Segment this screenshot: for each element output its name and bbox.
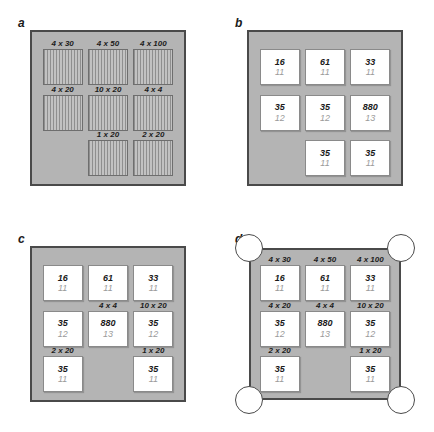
grid-cell[interactable]: 2 x 20 35 11 [40,347,85,392]
striped-box[interactable] [88,95,128,131]
grid-cell[interactable]: 35 11 [348,131,393,176]
value-box[interactable]: 35 11 [133,356,173,392]
value-primary: 61 [320,273,330,283]
value-box[interactable]: 35 12 [350,311,390,347]
grid-cell[interactable]: 4 x 20 [40,85,85,130]
cell-grid-b: 16 11 61 11 33 11 [249,32,401,184]
value-primary: 33 [148,273,158,283]
grid-cell[interactable]: 10 x 20 35 12 [131,301,176,346]
striped-box[interactable] [133,95,173,131]
value-box[interactable]: 16 11 [260,49,300,85]
grid-cell[interactable]: 35 11 [302,131,347,176]
value-secondary: 11 [103,283,112,293]
grid-cell[interactable]: 4 x 20 35 12 [257,301,302,346]
grid-cell[interactable]: 1 x 20 [85,131,130,176]
grid-cell[interactable]: 16 11 [40,256,85,301]
value-secondary: 12 [58,329,68,339]
value-box[interactable]: 33 11 [350,265,390,301]
grid-cell[interactable]: 4 x 4 [131,85,176,130]
grid-cell[interactable]: 4 x 4 880 13 [302,301,347,346]
cell-label: 1 x 20 [142,347,164,355]
striped-box[interactable] [43,49,83,85]
grid-cell[interactable]: 880 13 [348,85,393,130]
value-secondary: 11 [275,283,284,293]
value-box[interactable]: 35 12 [305,95,345,131]
value-secondary: 11 [366,283,375,293]
corner-circle-top-left[interactable] [235,234,263,262]
value-secondary: 12 [365,329,375,339]
grid-cell[interactable]: 4 x 4 880 13 [85,301,130,346]
grid-cell[interactable]: 33 11 [348,40,393,85]
board-c: 16 11 61 11 33 11 [30,246,186,402]
value-box[interactable]: 35 11 [350,140,390,176]
value-box[interactable]: 35 11 [43,356,83,392]
value-box[interactable]: 61 11 [305,265,345,301]
panel-c: c 16 11 61 11 [0,216,217,432]
cell-label: 2 x 20 [269,347,291,355]
cell-label: 1 x 20 [359,347,381,355]
grid-cell[interactable]: 10 x 20 [85,85,130,130]
striped-box[interactable] [88,140,128,176]
grid-cell[interactable]: 10 x 20 35 12 [348,301,393,346]
grid-cell[interactable]: 16 11 [257,40,302,85]
value-box[interactable]: 35 11 [350,356,390,392]
grid-cell[interactable]: 35 12 [302,85,347,130]
value-box[interactable]: 35 12 [260,95,300,131]
value-box[interactable]: 33 11 [350,49,390,85]
grid-cell[interactable]: 1 x 20 35 11 [348,347,393,392]
panel-b: b 16 11 61 11 [217,0,434,216]
value-box[interactable]: 35 12 [260,311,300,347]
value-box[interactable]: 33 11 [133,265,173,301]
cell-label: 4 x 30 [52,40,74,48]
value-secondary: 11 [320,283,329,293]
grid-cell[interactable]: 33 11 [131,256,176,301]
grid-cell[interactable]: 2 x 20 [131,131,176,176]
value-box[interactable]: 35 11 [305,140,345,176]
value-secondary: 11 [366,374,375,384]
value-box[interactable]: 880 13 [350,95,390,131]
value-primary: 16 [275,57,285,67]
value-box[interactable]: 35 12 [133,311,173,347]
striped-box[interactable] [88,49,128,85]
value-box[interactable]: 35 12 [43,311,83,347]
value-box[interactable]: 880 13 [305,311,345,347]
grid-cell[interactable]: 1 x 20 35 11 [131,347,176,392]
grid-cell[interactable]: 4 x 50 61 11 [302,256,347,301]
corner-circle-bottom-left[interactable] [235,386,263,414]
grid-cell[interactable]: 4 x 100 [131,40,176,85]
value-primary: 35 [148,318,158,328]
corner-circle-top-right[interactable] [387,234,415,262]
grid-cell[interactable]: 35 12 [257,85,302,130]
value-primary: 35 [148,364,158,374]
grid-cell[interactable]: 2 x 20 35 11 [257,347,302,392]
grid-cell[interactable]: 35 12 [40,301,85,346]
cell-grid-c: 16 11 61 11 33 11 [32,248,184,400]
striped-box[interactable] [43,95,83,131]
value-box[interactable]: 880 13 [88,311,128,347]
cell-grid-d: 4 x 30 16 11 4 x 50 61 11 4 x 100 [251,250,399,398]
value-box[interactable]: 35 11 [260,356,300,392]
value-secondary: 12 [148,329,158,339]
grid-cell[interactable]: 4 x 30 [40,40,85,85]
cell-label: 10 x 20 [95,86,122,94]
value-secondary: 12 [275,113,285,123]
value-box[interactable]: 61 11 [88,265,128,301]
value-box[interactable]: 16 11 [260,265,300,301]
panel-d: d 4 x 30 16 11 4 x 50 61 11 [217,216,434,432]
grid-cell[interactable]: 61 11 [85,256,130,301]
grid-cell[interactable]: 61 11 [302,40,347,85]
value-box[interactable]: 61 11 [305,49,345,85]
panel-a: a 4 x 30 4 x 50 4 x 100 4 x 20 [0,0,217,216]
striped-box[interactable] [133,49,173,85]
value-secondary: 11 [320,67,329,77]
value-box[interactable]: 16 11 [43,265,83,301]
value-secondary: 11 [58,374,67,384]
striped-box[interactable] [133,140,173,176]
grid-cell[interactable]: 4 x 50 [85,40,130,85]
value-secondary: 13 [365,113,375,123]
value-primary: 35 [365,364,375,374]
grid-cell[interactable]: 4 x 30 16 11 [257,256,302,301]
board-a: 4 x 30 4 x 50 4 x 100 4 x 20 10 x 20 [30,30,186,186]
grid-cell[interactable]: 4 x 100 33 11 [348,256,393,301]
corner-circle-bottom-right[interactable] [387,386,415,414]
